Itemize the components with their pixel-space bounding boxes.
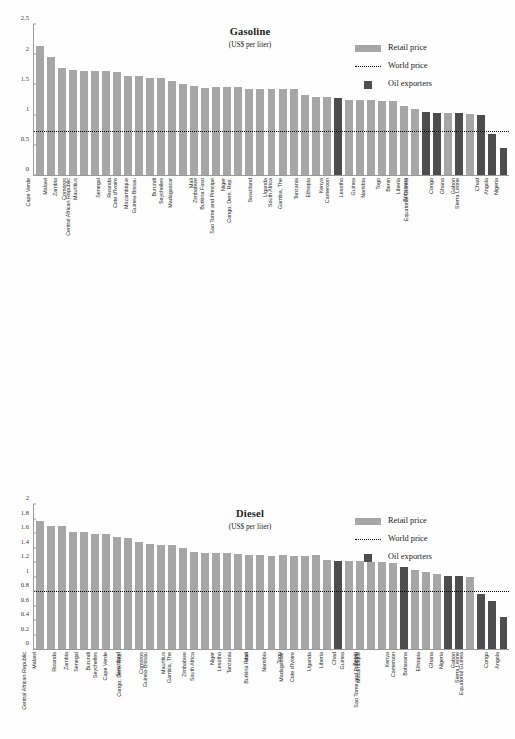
x-tick-label: Zimbabwe (193, 178, 198, 203)
bar-slot (498, 24, 509, 175)
y-tick-mark (33, 54, 36, 55)
bar (58, 68, 66, 176)
bar-slot (266, 24, 277, 175)
bar-slot (432, 24, 443, 175)
x-label-slot: Congo (432, 176, 443, 177)
bar (36, 46, 44, 175)
bar-slot (376, 24, 387, 175)
bar (323, 97, 331, 175)
x-label-slot: Senegal (100, 176, 111, 177)
world-price-line-gasoline (34, 131, 509, 132)
bar-slot (156, 24, 167, 175)
bar-slot (89, 24, 100, 175)
bar (135, 76, 143, 175)
bar (113, 72, 121, 175)
bar-slot (34, 24, 45, 175)
bar-slot (211, 24, 222, 175)
bar (157, 78, 165, 175)
x-tick-label: Guinea-Bissau (132, 178, 137, 213)
x-tick-label: Cote d'Ivoire (113, 178, 118, 208)
x-tick-label: Equatorial Guinea (405, 178, 410, 221)
x-label-slot: South Africa (277, 176, 288, 177)
bar (47, 57, 55, 175)
bar (455, 113, 463, 175)
bar (301, 95, 309, 175)
bar (422, 112, 430, 175)
x-label-slot: Madagascar (178, 176, 189, 177)
x-label-slot: Niger (222, 176, 233, 177)
y-tick-label: 2 (26, 45, 33, 52)
plot-area-gasoline: 00.511.522.5 (33, 24, 509, 176)
bar (69, 70, 77, 175)
x-label-slot: Benin (388, 176, 399, 177)
x-label-slot: Gabon (454, 176, 465, 177)
bar (102, 71, 110, 175)
x-tick-label: Tanzania (294, 178, 299, 200)
x-label-slot: Angola (487, 176, 498, 177)
x-tick-label: Mozambique (124, 178, 129, 209)
x-label-slot: Equatorial Guinea (421, 176, 432, 177)
x-label-slot: Botswana (410, 176, 421, 177)
x-tick-label: Lesotho (339, 178, 344, 197)
x-label-slot: Lesotho (343, 176, 354, 177)
bar (477, 115, 485, 175)
x-label-slot: Central African Republic (89, 176, 100, 177)
chart-panel-gasoline: Gasoline (US$ per liter) Retail price Wo… (0, 0, 515, 246)
y-tick-mark (33, 24, 36, 25)
y-tick-mark (33, 114, 36, 115)
bar-slot (365, 24, 376, 175)
bar (444, 113, 452, 175)
x-label-slot: Burkina Faso (211, 176, 222, 177)
bar-slot (78, 24, 89, 175)
x-tick-label: Burkina Faso (200, 178, 205, 210)
x-tick-labels-gasoline: Cape VerdeMalawiZambiaComorosMauritiusCe… (34, 176, 509, 177)
x-tick-label: Liberia (396, 178, 401, 194)
x-tick-label: Cameroon (325, 178, 330, 203)
bar-slot (476, 24, 487, 175)
x-label-slot: Sierra Leone (465, 176, 476, 177)
bar-slot (144, 24, 155, 175)
bar-slot (67, 24, 78, 175)
bar-slot (45, 24, 56, 175)
x-label-slot: Guinea (354, 176, 365, 177)
x-label-slot: Mozambique (133, 176, 144, 177)
bar (356, 100, 364, 175)
figure-root: Gasoline (US$ per liter) Retail price Wo… (0, 0, 515, 739)
x-label-slot: Zimbabwe (200, 176, 211, 177)
x-tick-label: Ghana (440, 178, 445, 194)
x-label-slot: Togo (376, 176, 387, 177)
x-label-slot: Ghana (443, 176, 454, 177)
bar (400, 106, 408, 175)
x-tick-label: Sao Tome and Principe (211, 178, 216, 234)
x-label-slot: Chad (476, 176, 487, 177)
x-label-slot: Mali (189, 176, 200, 177)
bar-slot (443, 24, 454, 175)
x-label-slot: Tanzania (299, 176, 310, 177)
x-label-slot: Rwanda (111, 176, 122, 177)
bar (389, 101, 397, 175)
bar-slot (200, 24, 211, 175)
bar-slot (122, 24, 133, 175)
bar (91, 71, 99, 175)
bar-slot (410, 24, 421, 175)
x-tick-label: Namibia (361, 178, 366, 198)
x-tick-label: Sierra Leone (455, 178, 460, 209)
x-label-slot: Congo, Dem. Rep. (244, 176, 255, 177)
bar (124, 76, 132, 175)
x-label-slot: Nigeria (498, 176, 509, 177)
x-label-slot: Cameroon (332, 176, 343, 177)
bar-slot (100, 24, 111, 175)
x-tick-label: Senegal (96, 178, 101, 198)
bar-slot (354, 24, 365, 175)
bar-slot (244, 24, 255, 175)
chart-panel-diesel: Diesel (US$ per liter) Retail price Worl… (0, 246, 515, 492)
x-tick-label: Congo, Dem. Rep. (227, 178, 232, 223)
x-tick-label: Chad (475, 178, 480, 191)
x-label-slot: Mauritius (78, 176, 89, 177)
x-tick-label: Angola (484, 178, 489, 195)
x-label-slot: Guinea-Bissau (144, 176, 155, 177)
x-label-slot: Burundi (156, 176, 167, 177)
bar-slot (321, 24, 332, 175)
x-label-slot: Uganda (266, 176, 277, 177)
bar (334, 98, 342, 175)
